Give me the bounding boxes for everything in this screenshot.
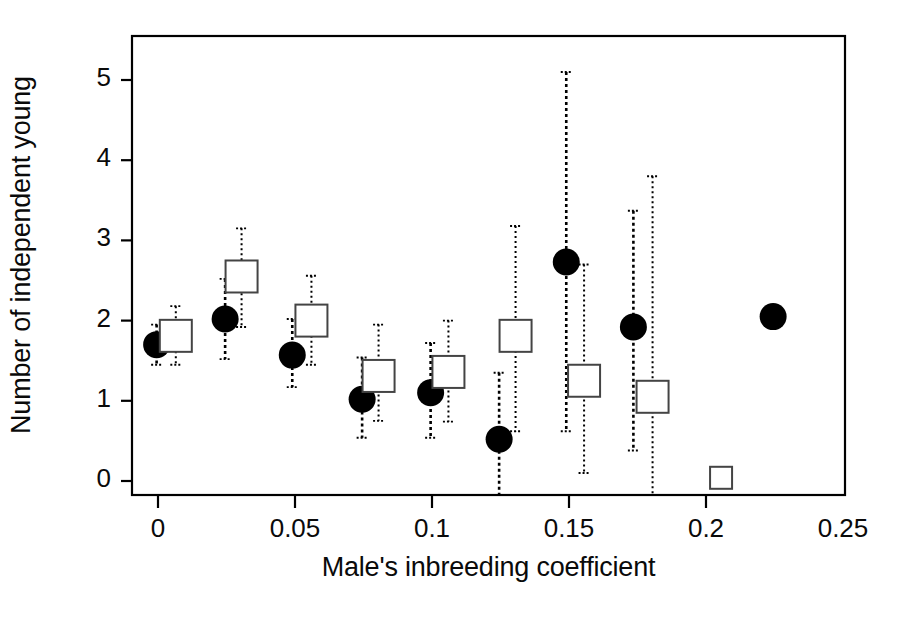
- y-tick-label: 1: [77, 383, 111, 414]
- x-tick-label: 0.05: [250, 513, 340, 544]
- y-tick-label: 2: [77, 303, 111, 334]
- y-axis-title: Number of independent young: [6, 5, 46, 505]
- x-tick-label: 0.1: [387, 513, 477, 544]
- y-tick-label: 0: [77, 463, 111, 494]
- x-tick-label: 0.15: [524, 513, 614, 544]
- y-tick-label: 5: [77, 62, 111, 93]
- data-markers: [143, 249, 787, 489]
- x-tick-label: 0: [113, 513, 203, 544]
- x-axis-title: Male's inbreeding coefficient: [132, 552, 845, 583]
- x-tick-label: 0.2: [661, 513, 751, 544]
- x-tick-label: 0.25: [798, 513, 888, 544]
- y-tick-label: 3: [77, 222, 111, 253]
- y-tick-label: 4: [77, 142, 111, 173]
- figure-container: Number of independent young Male's inbre…: [0, 0, 897, 625]
- axis-tick-marks: [121, 80, 706, 508]
